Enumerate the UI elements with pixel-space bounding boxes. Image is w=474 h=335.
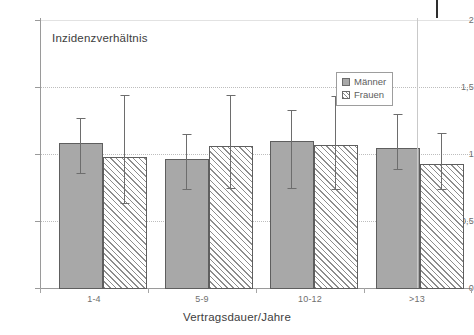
errorbar-maenner-5-9 bbox=[186, 134, 187, 189]
errorbar-cap-lower-frauen-5-9 bbox=[227, 188, 236, 189]
errorbar-maenner-1-4 bbox=[80, 118, 81, 173]
x-tick-0 bbox=[40, 288, 41, 293]
errorbar-cap-lower-frauen-10-12 bbox=[332, 189, 341, 190]
x-axis-title: Vertragsdauer/Jahre bbox=[0, 311, 474, 323]
legend-item-frauen: Frauen bbox=[342, 89, 386, 102]
x-tick-1 bbox=[148, 288, 149, 293]
y-axis-label-1: 1 bbox=[446, 149, 474, 159]
bar-maenner-1-4 bbox=[59, 143, 103, 289]
x-axis-label-10-12: 10-12 bbox=[298, 294, 322, 304]
legend: Männer Frauen bbox=[336, 72, 393, 106]
legend-item-maenner: Männer bbox=[342, 76, 386, 89]
y-tick-0-5 bbox=[35, 221, 41, 222]
errorbar-cap-upper-maenner-1-4 bbox=[77, 118, 86, 119]
scan-artifact-vertical-line bbox=[417, 18, 418, 288]
bar-frauen-gt13 bbox=[420, 164, 464, 289]
legend-swatch-maenner-icon bbox=[342, 78, 350, 86]
legend-label-frauen: Frauen bbox=[354, 89, 384, 102]
y-axis-label-1-5: 1,5 bbox=[446, 82, 474, 92]
errorbar-cap-upper-maenner-gt13 bbox=[394, 114, 403, 115]
errorbar-cap-upper-maenner-5-9 bbox=[183, 134, 192, 135]
errorbar-frauen-1-4 bbox=[124, 95, 125, 203]
x-axis-label-5-9: 5-9 bbox=[195, 294, 209, 304]
x-tick-3 bbox=[364, 288, 365, 293]
gridline-1-5 bbox=[40, 87, 472, 88]
errorbar-cap-lower-maenner-gt13 bbox=[394, 169, 403, 170]
x-tick-4 bbox=[471, 288, 472, 293]
errorbar-frauen-10-12 bbox=[335, 96, 336, 189]
errorbar-maenner-gt13 bbox=[397, 114, 398, 169]
errorbar-cap-lower-maenner-1-4 bbox=[77, 173, 86, 174]
gridline-2 bbox=[40, 20, 472, 21]
legend-label-maenner: Männer bbox=[354, 76, 386, 89]
legend-swatch-frauen-icon bbox=[342, 91, 350, 99]
errorbar-cap-upper-frauen-1-4 bbox=[121, 95, 130, 96]
errorbar-cap-upper-maenner-10-12 bbox=[288, 110, 297, 111]
errorbar-maenner-10-12 bbox=[291, 110, 292, 188]
errorbar-cap-lower-frauen-gt13 bbox=[438, 189, 447, 190]
x-axis-label-1-4: 1-4 bbox=[87, 294, 101, 304]
errorbar-cap-upper-frauen-5-9 bbox=[227, 95, 236, 96]
errorbar-frauen-5-9 bbox=[230, 95, 231, 188]
bar-maenner-10-12 bbox=[270, 141, 314, 289]
errorbar-frauen-gt13 bbox=[441, 133, 442, 189]
scan-artifact-tick-mark bbox=[436, 0, 438, 18]
bar-frauen-1-4 bbox=[103, 157, 147, 289]
incidence-ratio-bar-chart: 2 1,5 1 0,5 0 Inzidenzverhältnis 1-4 5-9… bbox=[0, 0, 474, 335]
y-tick-1 bbox=[35, 154, 41, 155]
x-tick-2 bbox=[256, 288, 257, 293]
errorbar-cap-lower-maenner-10-12 bbox=[288, 188, 297, 189]
y-axis-label-2: 2 bbox=[446, 15, 474, 25]
x-axis-label-gt13: >13 bbox=[409, 294, 425, 304]
bar-maenner-5-9 bbox=[165, 159, 209, 289]
errorbar-cap-upper-frauen-gt13 bbox=[438, 133, 447, 134]
y-tick-2 bbox=[35, 20, 41, 21]
errorbar-cap-lower-maenner-5-9 bbox=[183, 189, 192, 190]
errorbar-cap-lower-frauen-1-4 bbox=[121, 203, 130, 204]
bar-frauen-5-9 bbox=[209, 146, 253, 289]
plot-annotation: Inzidenzverhältnis bbox=[52, 32, 148, 44]
y-tick-1-5 bbox=[35, 87, 41, 88]
bar-frauen-10-12 bbox=[314, 145, 358, 289]
